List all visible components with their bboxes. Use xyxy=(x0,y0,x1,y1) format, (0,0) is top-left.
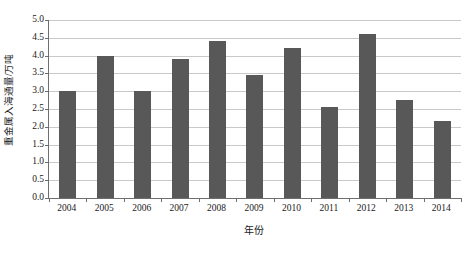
bar-slot xyxy=(424,20,461,198)
bar-slot xyxy=(236,20,273,198)
x-axis-tick-label: 2007 xyxy=(170,204,189,214)
y-axis-tick-label: 1.5 xyxy=(32,140,44,150)
x-axis-tick-label: 2014 xyxy=(432,204,451,214)
y-axis-tick-label: 4.5 xyxy=(32,33,44,43)
x-axis-tick-label: 2008 xyxy=(207,204,226,214)
bar-series xyxy=(49,20,461,198)
bar-slot xyxy=(86,20,123,198)
x-axis-tickmark xyxy=(386,198,387,202)
bar xyxy=(321,107,338,198)
x-axis-tickmark xyxy=(311,198,312,202)
bar xyxy=(434,121,451,198)
bar-slot xyxy=(349,20,386,198)
y-axis-tick-label: 0.0 xyxy=(32,193,44,203)
x-axis-tick-label: 2011 xyxy=(320,204,339,214)
y-axis-tick-label: 4.0 xyxy=(32,51,44,61)
x-axis-tick-label: 2004 xyxy=(57,204,76,214)
bar xyxy=(359,34,376,198)
x-axis-tick-label: 2006 xyxy=(132,204,151,214)
bar-slot xyxy=(49,20,86,198)
y-axis-tick-label: 0.5 xyxy=(32,175,44,185)
bar-chart: 重金属入海通量/万吨 5.04.54.03.53.02.52.01.51.00.… xyxy=(0,0,474,254)
bar xyxy=(172,59,189,198)
x-axis-tick-label: 2013 xyxy=(394,204,413,214)
y-axis-tick-labels: 5.04.54.03.53.02.52.01.51.00.50.0 xyxy=(16,14,46,200)
x-axis-title: 年份 xyxy=(48,222,460,237)
bar-slot xyxy=(386,20,423,198)
x-axis-tickmark xyxy=(86,198,87,202)
bar xyxy=(396,100,413,198)
x-axis-tickmark xyxy=(199,198,200,202)
y-axis-tick-label: 2.0 xyxy=(32,122,44,132)
plot-area xyxy=(48,20,461,199)
bar xyxy=(97,56,114,198)
bar xyxy=(209,41,226,198)
bar-slot xyxy=(311,20,348,198)
x-axis-tick-label: 2009 xyxy=(245,204,264,214)
x-axis-tick-label: 2012 xyxy=(357,204,376,214)
x-axis-tick-labels: 2004200520062007200820092010201120122013… xyxy=(48,204,460,220)
x-axis-tick-label: 2010 xyxy=(282,204,301,214)
x-axis-title-label: 年份 xyxy=(244,225,264,236)
bar-slot xyxy=(274,20,311,198)
bar xyxy=(246,75,263,198)
x-axis-tickmark xyxy=(424,198,425,202)
y-axis-tick-label: 5.0 xyxy=(32,15,44,25)
bar xyxy=(59,91,76,198)
x-axis-tickmark xyxy=(49,198,50,202)
y-axis-title: 重金属入海通量/万吨 xyxy=(0,0,16,200)
y-axis-tick-label: 3.0 xyxy=(32,86,44,96)
bar xyxy=(134,91,151,198)
x-axis-tickmark xyxy=(461,198,462,202)
bar-slot xyxy=(161,20,198,198)
x-axis-tickmark xyxy=(274,198,275,202)
x-axis-tickmark xyxy=(236,198,237,202)
x-axis-tickmark xyxy=(124,198,125,202)
y-axis-tick-label: 3.5 xyxy=(32,69,44,79)
bar-slot xyxy=(124,20,161,198)
x-axis-tickmark xyxy=(161,198,162,202)
bar xyxy=(284,48,301,198)
bar-slot xyxy=(199,20,236,198)
y-axis-tick-label: 2.5 xyxy=(32,104,44,114)
x-axis-tick-label: 2005 xyxy=(95,204,114,214)
y-axis-tick-label: 1.0 xyxy=(32,158,44,168)
x-axis-tickmark xyxy=(349,198,350,202)
y-axis-title-label: 重金属入海通量/万吨 xyxy=(1,54,15,147)
